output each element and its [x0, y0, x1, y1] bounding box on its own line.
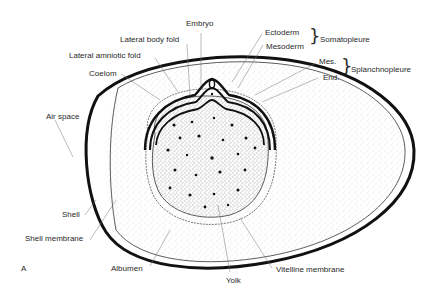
- label-shell: Shell: [62, 211, 80, 219]
- label-ectoderm: Ectoderm: [265, 29, 299, 37]
- label-mesoderm: Mesoderm: [266, 43, 304, 51]
- label-air-space: Air space: [46, 113, 79, 121]
- label-embryo: Embryo: [186, 20, 214, 28]
- label-somatopleure: Somatopleure: [320, 36, 370, 44]
- egg-cross-section-diagram: [0, 0, 438, 301]
- label-lateral-amniotic-fold: Lateral amniotic fold: [69, 52, 141, 60]
- somatopleure-brace: }: [309, 27, 320, 45]
- label-lateral-body-fold: Lateral body fold: [120, 36, 179, 44]
- label-mes: Mes.: [319, 58, 336, 66]
- yolk-region: [152, 96, 268, 217]
- label-yolk: Yolk: [226, 277, 241, 285]
- panel-letter: A: [21, 265, 26, 273]
- label-albumen: Albumen: [111, 265, 143, 273]
- label-shell-membrane: Shell membrane: [25, 235, 83, 243]
- label-vitelline-membrane: Vitelline membrane: [276, 266, 344, 274]
- label-splanchnopleure: Splanchnopleure: [351, 66, 411, 74]
- label-coelom: Coelom: [89, 70, 117, 78]
- label-end: End.: [323, 74, 339, 82]
